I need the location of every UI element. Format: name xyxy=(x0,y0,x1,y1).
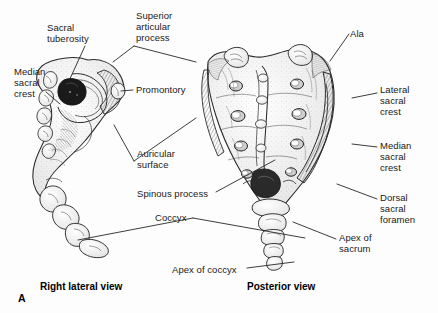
coccyx-posterior xyxy=(258,214,286,271)
leader-superior-articular-process-left xyxy=(113,46,134,62)
leader-apex-of-sacrum xyxy=(293,222,336,239)
leader-auricular-surface xyxy=(114,125,134,161)
label-median-sacral-crest-right: Median sacral crest xyxy=(380,140,411,173)
right-lateral-view-bone xyxy=(33,58,125,258)
caption-posterior-view: Posterior view xyxy=(247,281,315,292)
leader-ala xyxy=(330,34,349,61)
label-promontory: Promontory xyxy=(136,84,186,95)
label-apex-of-coccyx: Apex of coccyx xyxy=(172,264,237,275)
sacrum-anatomy-figure: Sacral tuberositySuperior articular proc… xyxy=(0,0,438,313)
leader-coccyx-branch xyxy=(193,218,305,238)
label-superior-articular-process: Superior articular process xyxy=(136,10,172,43)
leader-median-sacral-crest-right xyxy=(352,144,377,147)
label-coccyx: Coccyx xyxy=(155,212,186,223)
label-auricular-surface: Auricular surface xyxy=(137,148,175,170)
leader-superior-articular-process-branch xyxy=(134,46,196,62)
label-median-sacral-crest-left: Median sacral crest xyxy=(14,66,45,99)
label-spinous-process: Spinous process xyxy=(137,188,208,199)
label-dorsal-sacral-foramen: Dorsal sacral foramen xyxy=(380,192,415,225)
panel-letter: A xyxy=(18,292,26,304)
label-sacral-tuberosity: Sacral tuberosity xyxy=(47,22,89,44)
leader-lateral-sacral-crest xyxy=(352,93,377,98)
label-apex-of-sacrum: Apex of sacrum xyxy=(339,232,372,254)
leader-dorsal-sacral-foramen xyxy=(337,184,377,199)
label-lateral-sacral-crest: Lateral sacral crest xyxy=(380,84,409,117)
posterior-view-bone xyxy=(202,45,334,271)
label-ala: Ala xyxy=(350,28,364,39)
caption-right-lateral-view: Right lateral view xyxy=(40,281,122,292)
